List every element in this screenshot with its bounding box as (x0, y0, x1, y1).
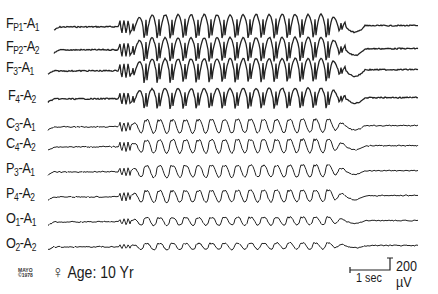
channel-label-fp1-a1: FP1-A1 (6, 15, 39, 35)
trace-o2-a2 (48, 242, 418, 250)
female-icon: ♀ (52, 262, 64, 282)
trace-c3-a1 (48, 119, 418, 134)
trace-f4-a2 (48, 88, 418, 109)
channel-label-f4-a2: F4-A2 (8, 87, 36, 107)
channel-label-p4-a2: P4-A2 (6, 185, 35, 205)
trace-c4-a2 (48, 139, 418, 154)
channel-label-f3-a1: F3-A1 (6, 59, 34, 79)
trace-p3-a1 (48, 165, 418, 179)
trace-f3-a1 (48, 58, 418, 83)
mayo-logo: MAYO ©1978 (18, 268, 33, 278)
channel-label-o2-a2: O2-A2 (6, 235, 36, 255)
trace-fp1-a1 (54, 14, 418, 39)
logo-copyright: ©1978 (18, 273, 33, 278)
channel-label-fp2-a2: FP2-A2 (6, 38, 39, 58)
age-label: Age: 10 Yr (67, 264, 133, 281)
channel-label-c4-a2: C4-A2 (6, 135, 35, 155)
patient-info: ♀Age: 10 Yr (52, 262, 134, 283)
channel-label-p3-a1: P3-A1 (6, 160, 35, 180)
amplitude-scale-label: 200 µV (396, 258, 434, 290)
trace-o1-a1 (48, 217, 418, 226)
channel-label-o1-a1: O1-A1 (6, 210, 36, 230)
channel-label-c3-a1: C3-A1 (6, 115, 35, 135)
time-scale-label: 1 sec (356, 271, 382, 285)
eeg-trace-canvas (0, 0, 438, 294)
trace-p4-a2 (48, 190, 418, 203)
trace-fp2-a2 (54, 37, 418, 62)
